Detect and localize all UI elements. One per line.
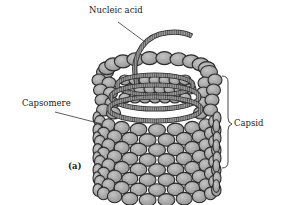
nucleic-acid-label: Nucleic acid (89, 6, 143, 15)
capsomere (213, 120, 220, 133)
capsid-bracket (222, 76, 232, 168)
capsomere (213, 160, 220, 173)
capsomere (213, 140, 220, 153)
capsid-front-rows (93, 112, 221, 205)
capsomere (176, 192, 192, 205)
nucleic-acid-leader-line (118, 22, 145, 42)
capsomere (213, 180, 220, 193)
panel-label: (a) (68, 162, 82, 171)
capsid-label: Capsid (234, 119, 264, 128)
capsomere (107, 190, 121, 203)
capsomere-label: Capsomere (22, 99, 71, 108)
capsomere (122, 192, 138, 205)
capsomere (139, 194, 156, 205)
helical-virus-diagram: Nucleic acid Capsomere Capsid (a) (0, 0, 284, 205)
capsomere (158, 194, 175, 205)
